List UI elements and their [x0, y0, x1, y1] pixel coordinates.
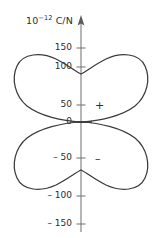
- plot-canvas: [0, 0, 163, 238]
- polar-lobe-figure: 10−12 C/N 150 100 50 0 – 50 – 100 – 150 …: [0, 0, 163, 238]
- tick-label-50: 50: [61, 100, 72, 109]
- plus-sign-marker: +: [95, 100, 104, 111]
- tick-label-150: 150: [55, 43, 72, 52]
- minus-sign-marker: –: [95, 153, 101, 164]
- tick-label-neg100: – 100: [47, 191, 72, 200]
- axis-unit-exponent: −12: [38, 14, 52, 22]
- axis-unit-label: 10−12 C/N: [26, 16, 73, 26]
- tick-label-0: 0: [66, 117, 72, 126]
- tick-marks: [77, 48, 93, 224]
- axis-unit-mantissa: 10: [26, 15, 38, 26]
- tick-label-neg150: – 150: [47, 219, 72, 228]
- tick-label-neg50: – 50: [53, 153, 72, 162]
- tick-label-100: 100: [55, 62, 72, 71]
- axis-unit-suffix: C/N: [53, 15, 73, 26]
